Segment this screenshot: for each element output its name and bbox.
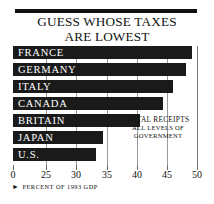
tick-label-50: 50 xyxy=(185,169,209,180)
tick-label-0: 0 xyxy=(1,169,25,180)
bar-label-germany: GERMANY xyxy=(18,63,76,76)
chart-title-line-1: GUESS WHOSE TAXES xyxy=(0,15,214,30)
bar-label-france: FRANCE xyxy=(18,46,64,59)
triangle-marker-icon: ► xyxy=(12,183,19,191)
x-axis-footnote: ►PERCENT OF 1993 GDP xyxy=(12,183,98,191)
tick-label-45: 45 xyxy=(155,169,179,180)
bar-row: GERMANY xyxy=(13,63,197,76)
annotation-line-1: TOTAL RECEIPTS xyxy=(118,116,198,124)
bar-row: CANADA xyxy=(13,97,197,110)
gridline-50 xyxy=(197,46,198,165)
tick-label-35: 35 xyxy=(95,169,119,180)
bar-row: U.S. xyxy=(13,148,197,161)
bar-label-britain: BRITAIN xyxy=(18,114,65,127)
annotation-line-3: GOVERNMENT xyxy=(118,132,198,140)
tick-label-25: 25 xyxy=(34,169,58,180)
footnote-text: PERCENT OF 1993 GDP xyxy=(22,183,97,190)
bar-label-italy: ITALY xyxy=(18,80,51,93)
annotation-line-2: ALL LEVELS OF xyxy=(118,124,198,132)
bar-label-canada: CANADA xyxy=(18,97,68,110)
chart-title-line-2: ARE LOWEST xyxy=(0,30,214,45)
chart-figure: GUESS WHOSE TAXES ARE LOWEST FRANCEGERMA… xyxy=(0,0,214,204)
plot-area: FRANCEGERMANYITALYCANADABRITAINJAPANU.S. xyxy=(13,46,197,165)
chart-annotation: TOTAL RECEIPTS ALL LEVELS OF GOVERNMENT xyxy=(118,116,198,141)
bar-label-japan: JAPAN xyxy=(18,131,54,144)
chart-title: GUESS WHOSE TAXES ARE LOWEST xyxy=(0,15,214,44)
title-rule xyxy=(15,9,197,13)
tick-label-30: 30 xyxy=(64,169,88,180)
bar-row: ITALY xyxy=(13,80,197,93)
bar-label-us: U.S. xyxy=(18,148,40,161)
bar-row: FRANCE xyxy=(13,46,197,59)
x-axis-labels: 0253035404550 xyxy=(0,169,214,181)
tick-label-40: 40 xyxy=(125,169,149,180)
